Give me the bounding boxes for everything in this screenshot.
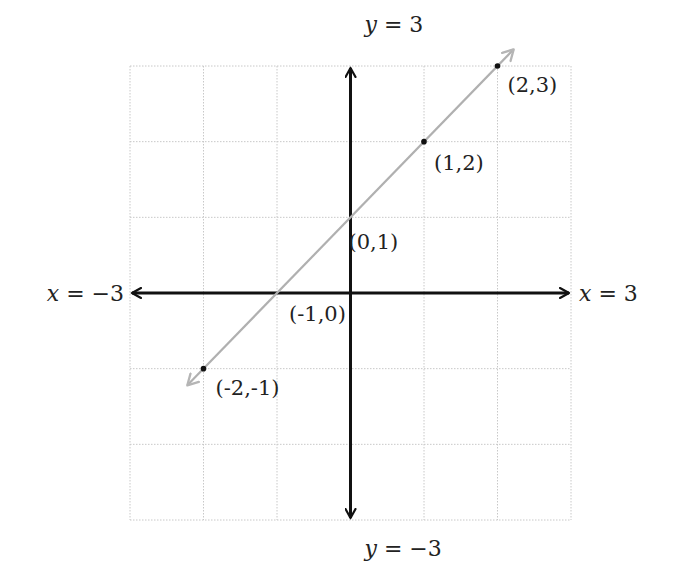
data-point	[201, 366, 207, 372]
point-label: (-1,0)	[289, 302, 346, 326]
x-right-label: x = 3	[579, 281, 638, 306]
x-left-label: x = −3	[47, 281, 124, 306]
point-label: (1,2)	[434, 151, 484, 175]
point-label: (0,1)	[349, 230, 399, 254]
y-top-label: y = 3	[364, 12, 424, 37]
axes	[132, 68, 569, 518]
y-bottom-label: y = −3	[364, 536, 442, 561]
data-point	[495, 63, 501, 69]
data-point	[421, 139, 427, 145]
line-series: (-2,-1)(-1,0)(0,1)(1,2)(2,3)	[187, 49, 557, 399]
point-label: (-2,-1)	[216, 376, 280, 400]
point-label: (2,3)	[508, 73, 558, 97]
coordinate-plane: (-2,-1)(-1,0)(0,1)(1,2)(2,3) y = 3y = −3…	[0, 0, 678, 582]
